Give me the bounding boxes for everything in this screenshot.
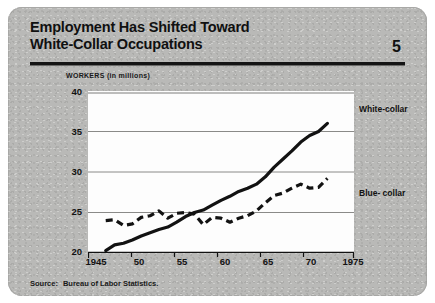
y-tick-label-30: 30 — [60, 166, 82, 177]
page-number: 5 — [392, 38, 401, 56]
series-line-white-collar — [106, 123, 328, 250]
x-axis-ticks — [88, 253, 358, 259]
y-tick-label-35: 35 — [60, 126, 82, 137]
source-note: Source:Bureau of Labor Statistics. — [30, 279, 158, 288]
series-label-blue-collar: Blue- collar — [359, 188, 405, 198]
source-label: Source: — [30, 279, 58, 288]
chart-card: Employment Has Shifted Toward White-Coll… — [8, 7, 427, 296]
chart-svg — [88, 91, 354, 253]
page-title-line2: White-Collar Occupations — [30, 36, 330, 53]
title-divider — [30, 62, 405, 66]
page-title-line1: Employment Has Shifted Toward — [30, 19, 330, 36]
source-text: Bureau of Labor Statistics. — [63, 279, 158, 288]
y-tick-label-40: 40 — [60, 86, 82, 97]
plot-area — [88, 91, 354, 253]
series-label-white-collar: White-collar — [359, 104, 408, 114]
page-title: Employment Has Shifted Toward White-Coll… — [30, 19, 330, 53]
y-axis-unit-label: WORKERS (in millions) — [66, 72, 150, 79]
y-tick-label-25: 25 — [60, 206, 82, 217]
